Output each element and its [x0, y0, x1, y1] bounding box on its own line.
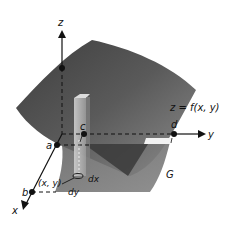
region-edge-strip — [144, 138, 172, 144]
dx-label: dx — [88, 174, 100, 184]
double-integral-diagram: z y x c d a b (x, y) dx dy z = f(x, y) G — [0, 0, 232, 226]
point-b-label: b — [22, 187, 28, 198]
x-axis-label: x — [11, 205, 18, 216]
point-c-label: c — [80, 121, 86, 132]
region-g-label: G — [166, 169, 174, 180]
volume-column-side — [86, 97, 90, 174]
surface-equation-label: z = f(x, y) — [169, 102, 220, 113]
z-axis-label: z — [57, 17, 64, 28]
point-xy-label: (x, y) — [38, 178, 61, 188]
volume-column — [74, 98, 86, 176]
y-axis-label: y — [207, 129, 215, 140]
z-surface-point — [59, 65, 65, 71]
y-axis-arrow-icon — [198, 130, 206, 138]
z-axis-arrow-icon — [58, 30, 66, 38]
point-a-label: a — [46, 140, 52, 151]
point-d — [171, 131, 177, 137]
point-d-label: d — [171, 119, 178, 130]
dy-label: dy — [68, 187, 80, 197]
